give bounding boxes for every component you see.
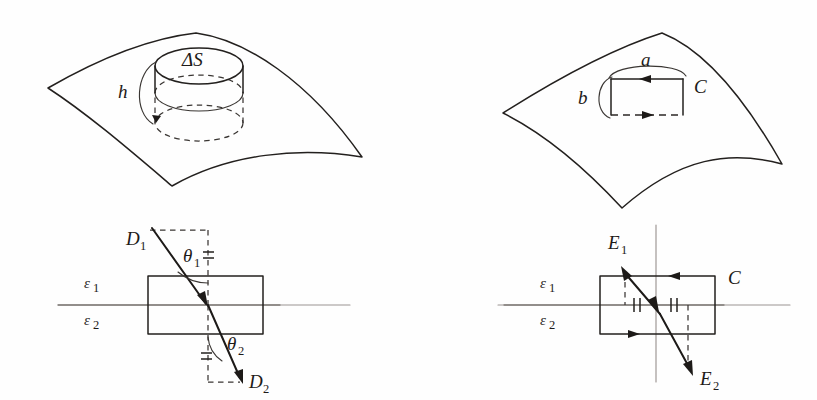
label-d2: D — [248, 371, 263, 392]
vector-e1-line — [624, 272, 660, 314]
curved-surface-sheet-tl — [48, 33, 362, 186]
loop-top-arrow — [639, 75, 651, 83]
loop-br-top-arrow — [668, 272, 680, 280]
panel-bottom-right: E 1 E 2 C ε 1 ε 2 — [498, 225, 790, 393]
pillbox-bottom-ellipse — [155, 105, 243, 141]
panel-top-left: ΔS h — [48, 33, 362, 186]
figure-canvas: ΔS h a b C — [0, 0, 817, 400]
angle-arc-theta2 — [208, 337, 222, 361]
label-e2: E — [699, 368, 712, 389]
label-e2-subscript: 2 — [713, 379, 719, 393]
label-theta1: θ — [183, 245, 192, 266]
label-b: b — [578, 87, 588, 108]
label-theta2-subscript: 2 — [238, 344, 244, 358]
pillbox-mid-ellipse-front — [155, 93, 243, 111]
panel-top-right: a b C — [503, 33, 782, 208]
angle-arc-theta1 — [178, 272, 208, 283]
label-eps2-bl: ε — [84, 312, 90, 328]
label-eps1-bl-subscript: 1 — [93, 281, 99, 295]
vector-e1-arrow-midtip — [648, 296, 659, 312]
panel-bottom-left: D 1 D 2 θ 1 θ 2 ε 1 ε 2 — [58, 228, 350, 396]
label-e1-subscript: 1 — [621, 243, 627, 257]
side-b-brace — [599, 77, 612, 118]
vector-e2-arrowhead — [683, 360, 693, 376]
label-d1: D — [125, 228, 140, 249]
label-theta1-subscript: 1 — [194, 256, 200, 270]
vector-e2-line — [660, 314, 690, 369]
label-eps1-bl: ε — [84, 275, 90, 291]
figure-root: ΔS h a b C — [0, 0, 817, 400]
height-brace-arc — [139, 62, 156, 124]
label-eps1-br: ε — [540, 275, 546, 291]
label-d2-subscript: 2 — [263, 382, 269, 396]
label-theta2: θ — [227, 333, 236, 354]
label-eps1-br-subscript: 1 — [549, 281, 555, 295]
label-delta-s: ΔS — [181, 49, 203, 70]
label-d1-subscript: 1 — [140, 239, 146, 253]
label-eps2-br: ε — [540, 312, 546, 328]
label-a: a — [641, 49, 651, 70]
label-contour-c-top: C — [694, 76, 707, 97]
label-h: h — [118, 81, 128, 102]
loop-bottom-arrow — [642, 111, 654, 119]
label-eps2-br-subscript: 2 — [549, 318, 555, 332]
label-e1: E — [607, 232, 620, 253]
loop-br-bottom-arrow — [628, 330, 640, 338]
label-contour-c-bottom: C — [728, 267, 741, 288]
label-eps2-bl-subscript: 2 — [93, 318, 99, 332]
height-arrow-tip-lower — [152, 115, 161, 123]
